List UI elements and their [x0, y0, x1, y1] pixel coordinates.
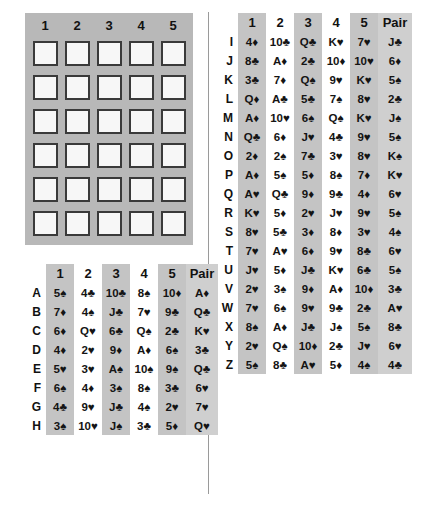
card-cell: 4♠: [350, 355, 378, 374]
blank-grid-cell[interactable]: [129, 177, 154, 202]
card-cell: J♣: [102, 397, 130, 416]
blank-grid-cell-wrap: [157, 75, 189, 100]
blank-grid-cell-wrap: [125, 109, 157, 134]
blank-grid-cell[interactable]: [161, 41, 186, 66]
card-cell: J♥: [238, 260, 266, 279]
table-row: QA♥Q♣9♦9♣4♦6♥: [216, 184, 412, 203]
card-cell: 6♠: [46, 378, 74, 397]
card-cell: 7♦: [350, 165, 378, 184]
blank-grid-cell-wrap: [125, 143, 157, 168]
blank-grid-cell-wrap: [93, 75, 125, 100]
table-row: V2♥3♠9♦A♦10♦3♣: [216, 279, 412, 298]
blank-grid-row: [29, 36, 189, 70]
blank-grid-row: [29, 138, 189, 172]
blank-grid-cell-wrap: [125, 41, 157, 66]
blank-grid-cell-wrap: [29, 143, 61, 168]
blank-grid-cell-wrap: [29, 41, 61, 66]
blank-grid-cell[interactable]: [161, 211, 186, 236]
blank-grid-cell[interactable]: [97, 75, 122, 100]
card-cell: 5♦: [322, 355, 350, 374]
card-cell: 8♣: [350, 241, 378, 260]
blank-grid-cell[interactable]: [129, 41, 154, 66]
card-cell: 2♠: [266, 146, 294, 165]
blank-grid-cell[interactable]: [129, 109, 154, 134]
card-cell: 3♥: [74, 359, 102, 378]
card-cell: 2♥: [238, 336, 266, 355]
card-cell: 7♠: [322, 89, 350, 108]
blank-grid-cell[interactable]: [65, 211, 90, 236]
card-cell: 6♦: [46, 321, 74, 340]
pair-cell: 3♣: [378, 279, 412, 298]
blank-grid-cell[interactable]: [129, 75, 154, 100]
table-row: PA♦5♠5♦8♠7♦K♥: [216, 165, 412, 184]
blank-grid-cell[interactable]: [65, 177, 90, 202]
card-cell: J♥: [322, 203, 350, 222]
card-cell: 9♥: [322, 70, 350, 89]
pair-cell: 7♥: [186, 397, 218, 416]
card-cell: J♣: [102, 302, 130, 321]
pair-cell: A♥: [378, 298, 412, 317]
card-cell: K♥: [322, 260, 350, 279]
blank-grid-cell[interactable]: [33, 109, 58, 134]
card-cell: 8♠: [322, 165, 350, 184]
table-row: UJ♥5♦J♣K♥6♣5♠: [216, 260, 412, 279]
card-cell: 4♣: [46, 397, 74, 416]
blank-grid-cell[interactable]: [33, 75, 58, 100]
column-header-1: 1: [238, 13, 266, 32]
card-cell: 5♦: [158, 416, 186, 435]
blank-grid-cell[interactable]: [97, 41, 122, 66]
blank-grid-col-header: 3: [93, 16, 125, 36]
blank-grid-cell[interactable]: [129, 143, 154, 168]
blank-grid-cell[interactable]: [161, 177, 186, 202]
corner-blank: [216, 13, 238, 32]
card-cell: 10♥: [266, 108, 294, 127]
blank-grid-cell-wrap: [61, 177, 93, 202]
blank-grid-col-header: 2: [61, 16, 93, 36]
row-label: J: [216, 51, 238, 70]
card-cell: 2♣: [350, 298, 378, 317]
card-cell: 2♣: [322, 336, 350, 355]
blank-grid-cell[interactable]: [65, 41, 90, 66]
blank-grid-cell[interactable]: [97, 211, 122, 236]
card-cell: 7♥: [238, 298, 266, 317]
card-cell: 9♦: [294, 279, 322, 298]
table-row: MA♦10♥6♠Q♠K♥J♠: [216, 108, 412, 127]
table-row: E5♥3♥A♠10♠9♠Q♣: [25, 359, 218, 378]
blank-grid-cell[interactable]: [161, 109, 186, 134]
blank-grid-cell[interactable]: [33, 41, 58, 66]
blank-grid-cell[interactable]: [33, 177, 58, 202]
row-label: V: [216, 279, 238, 298]
blank-grid-cell[interactable]: [65, 109, 90, 134]
card-table-left-body: A5♠4♣10♣8♠10♦A♦B7♦4♠J♣7♥9♣Q♣C6♦Q♥6♣Q♠2♣K…: [25, 283, 218, 435]
pair-cell: 3♣: [186, 340, 218, 359]
pair-cell: 5♠: [378, 70, 412, 89]
card-cell: 3♣: [158, 378, 186, 397]
blank-grid-cell[interactable]: [65, 75, 90, 100]
blank-grid-cell[interactable]: [33, 211, 58, 236]
card-cell: J♣: [294, 317, 322, 336]
row-label: W: [216, 298, 238, 317]
card-cell: 6♠: [158, 340, 186, 359]
blank-grid-column-headers: 1 2 3 4 5: [29, 16, 189, 36]
card-cell: J♥: [294, 127, 322, 146]
card-cell: Q♥: [74, 321, 102, 340]
card-cell: 6♣: [102, 321, 130, 340]
blank-grid-cell[interactable]: [129, 211, 154, 236]
blank-grid-cell[interactable]: [97, 143, 122, 168]
blank-grid-cell-wrap: [125, 75, 157, 100]
row-label: Z: [216, 355, 238, 374]
card-table-right-header: 1 2 3 4 5 Pair: [216, 13, 412, 32]
card-cell: 6♠: [294, 108, 322, 127]
row-label: B: [25, 302, 46, 321]
blank-grid-cell[interactable]: [161, 143, 186, 168]
pair-cell: J♠: [378, 108, 412, 127]
blank-grid-col-header: 4: [125, 16, 157, 36]
card-table-right-body: I4♦10♣Q♣K♥7♥J♣J8♣A♦2♣10♦10♥6♦K3♣7♦Q♠9♥K♥…: [216, 32, 412, 374]
blank-grid-row: [29, 206, 189, 240]
table-row: K3♣7♦Q♠9♥K♥5♠: [216, 70, 412, 89]
blank-grid-cell[interactable]: [161, 75, 186, 100]
blank-grid-cell[interactable]: [97, 109, 122, 134]
blank-grid-cell[interactable]: [65, 143, 90, 168]
blank-grid-cell[interactable]: [97, 177, 122, 202]
blank-grid-cell[interactable]: [33, 143, 58, 168]
